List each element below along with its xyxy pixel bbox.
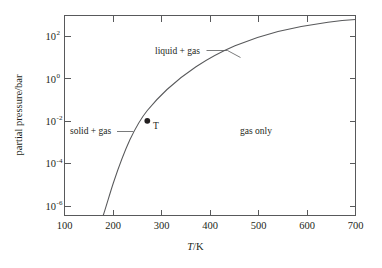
y-tick-label-1: 10 [46,74,57,85]
gas-only-label: gas only [240,126,272,136]
y-axis-title: partial pressure/bar [13,74,24,155]
x-tick-label-5: 600 [299,220,315,231]
x-tick-label-1: 200 [105,220,121,231]
y-tick-label-0: 10 [46,31,57,42]
y-tick-label-2: 10 [46,116,57,127]
y-tick-exp-2: -2 [57,114,63,122]
triple-point-label: T [153,121,159,131]
x-tick-label-4: 500 [251,220,267,231]
y-tick-exp-4: -6 [57,199,63,207]
x-axis-tick-labels: 100 200 300 400 500 600 700 [57,220,364,231]
x-tick-label-3: 400 [202,220,218,231]
liquid-gas-label: liquid + gas [155,46,200,56]
solid-gas-label: solid + gas [70,126,112,136]
y-tick-exp-3: -4 [57,157,63,165]
plot-background [64,15,355,215]
y-tick-exp-1: 0 [57,72,61,80]
y-tick-label-3: 10 [46,158,57,169]
triple-point-marker [144,118,150,124]
x-axis-title: T /K [187,241,204,252]
y-tick-label-4: 10 [46,201,57,212]
x-tick-label-2: 300 [154,220,170,231]
y-tick-exp-0: 2 [57,29,61,37]
y-axis-tick-labels: 10 2 10 0 10 -2 10 -4 10 -6 [46,29,63,211]
phase-diagram-figure: 10 2 10 0 10 -2 10 -4 10 -6 100 200 300 … [0,0,382,268]
x-tick-label-6: 700 [348,220,364,231]
x-tick-label-0: 100 [57,220,73,231]
x-axis-title-units: /K [193,241,204,252]
